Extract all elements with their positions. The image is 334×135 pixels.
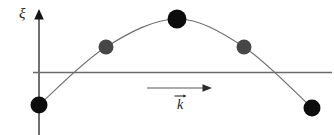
particle-dot	[168, 10, 187, 29]
wave-diagram-canvas	[0, 0, 334, 135]
particle-dot	[99, 40, 114, 55]
k-vector-label-group: k	[170, 93, 190, 115]
particle-dot	[237, 40, 252, 55]
vertical-axis-arrow-icon	[34, 9, 44, 20]
vertical-axis-label: ξ	[19, 6, 25, 21]
k-vector-arrow-icon	[203, 84, 213, 91]
particle-dot	[31, 97, 48, 114]
k-vector-label: k	[170, 98, 190, 112]
wave-diagram-figure: ξ k	[0, 0, 334, 135]
particle-dot	[304, 100, 321, 117]
